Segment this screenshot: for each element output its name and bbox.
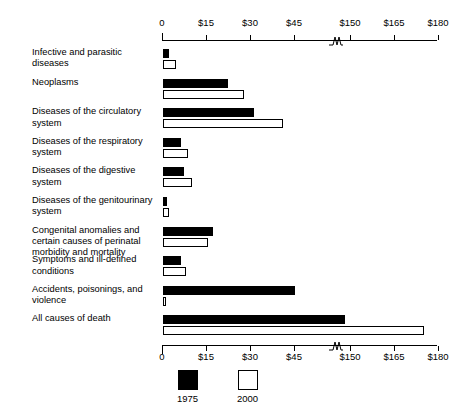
axis-tick-top-5: [394, 35, 395, 40]
axis-tick-label-top-4: $150: [339, 17, 360, 28]
axis-tick-label-bottom-0: 0: [159, 351, 164, 362]
axis-break-bottom-icon: [329, 339, 343, 351]
bar-1975-2: [163, 108, 254, 117]
axis-tick-label-bottom-2: $30: [242, 351, 258, 362]
bar-2000-1: [163, 90, 244, 99]
bar-1975-5: [163, 197, 167, 206]
category-label-8: Accidents, poisonings, and violence: [32, 284, 158, 307]
bar-2000-7: [163, 267, 186, 276]
axis-tick-label-top-5: $165: [383, 17, 404, 28]
category-label-2: Diseases of the circulatory system: [32, 106, 158, 129]
axis-tick-top-4: [350, 35, 351, 40]
axis-tick-top-3: [294, 35, 295, 40]
axis-tick-label-bottom-6: $180: [427, 351, 448, 362]
bar-1975-4: [163, 167, 184, 176]
bar-2000-3: [163, 149, 188, 158]
bar-2000-2: [163, 119, 283, 128]
axis-break-top-icon: [329, 34, 343, 46]
axis-tick-label-top-0: 0: [159, 17, 164, 28]
category-label-5: Diseases of the genitourinary system: [32, 195, 158, 218]
axis-tick-label-top-2: $30: [242, 17, 258, 28]
category-label-4: Diseases of the digestive system: [32, 165, 158, 188]
bar-chart: 0$15$30$45$150$165$180 0$15$30$45$150$16…: [0, 0, 457, 419]
category-label-7: Symptoms and ill-defined conditions: [32, 254, 158, 277]
axis-tick-label-bottom-1: $15: [198, 351, 214, 362]
axis-tick-top-2: [250, 35, 251, 40]
legend-label-2000: 2000: [237, 393, 258, 404]
category-label-3: Diseases of the respiratory system: [32, 136, 158, 159]
top-axis-line: [162, 40, 437, 41]
bar-2000-8: [163, 297, 166, 306]
bar-2000-0: [163, 60, 176, 69]
bar-2000-6: [163, 238, 208, 247]
axis-tick-label-bottom-4: $150: [339, 351, 360, 362]
legend-item-2000: 2000: [237, 370, 258, 404]
legend-swatch-1975-icon: [178, 370, 198, 390]
axis-tick-top-0: [162, 33, 163, 41]
legend-item-1975: 1975: [177, 370, 198, 404]
bottom-axis-line: [162, 345, 437, 346]
bar-1975-9: [163, 315, 345, 324]
axis-tick-label-bottom-5: $165: [383, 351, 404, 362]
bar-2000-9: [163, 326, 424, 335]
bar-1975-6: [163, 227, 213, 236]
bar-1975-8: [163, 286, 295, 295]
bar-2000-5: [163, 208, 169, 217]
bar-1975-3: [163, 138, 181, 147]
category-label-9: All causes of death: [32, 313, 158, 324]
legend-swatch-2000-icon: [238, 370, 258, 390]
axis-tick-label-top-1: $15: [198, 17, 214, 28]
category-label-0: Infective and parasitic diseases: [32, 47, 158, 70]
bar-1975-7: [163, 256, 181, 265]
axis-tick-label-bottom-3: $45: [286, 351, 302, 362]
chart-legend: 1975 2000: [0, 370, 457, 415]
axis-tick-top-1: [206, 35, 207, 40]
axis-tick-top-6: [438, 35, 439, 40]
legend-label-1975: 1975: [177, 393, 198, 404]
category-label-1: Neoplasms: [32, 77, 158, 88]
axis-tick-label-top-3: $45: [286, 17, 302, 28]
bar-1975-1: [163, 79, 228, 88]
bar-2000-4: [163, 178, 192, 187]
axis-tick-label-top-6: $180: [427, 17, 448, 28]
bar-1975-0: [163, 49, 169, 58]
